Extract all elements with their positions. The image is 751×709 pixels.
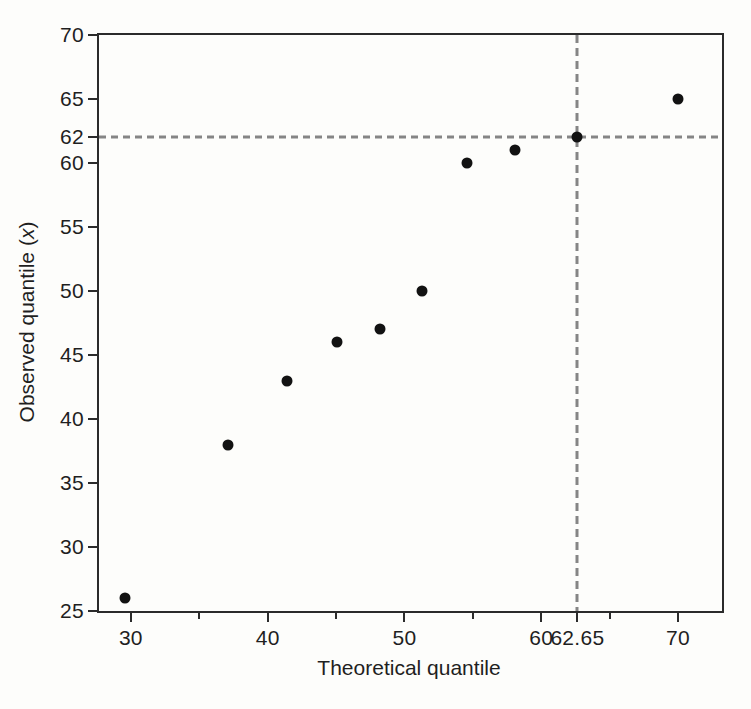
x-axis-tick xyxy=(677,613,679,622)
data-point xyxy=(281,375,292,386)
y-axis-tick xyxy=(88,290,97,292)
y-axis-tick-label: 30 xyxy=(60,535,84,559)
y-axis-tick-label: 25 xyxy=(60,599,84,623)
y-axis-tick-label: 60 xyxy=(60,151,84,175)
y-axis-tick xyxy=(88,418,97,420)
x-axis-tick xyxy=(267,613,269,622)
x-axis-tick xyxy=(576,613,578,622)
y-axis-tick xyxy=(88,98,97,100)
data-point xyxy=(417,286,428,297)
data-point xyxy=(332,337,343,348)
x-axis-tick-label: 70 xyxy=(666,626,690,650)
y-axis-tick xyxy=(88,136,97,138)
y-axis-tick-label: 62 xyxy=(60,125,84,149)
horizontal-reference-line xyxy=(99,136,722,139)
vertical-reference-line xyxy=(576,35,579,611)
data-point xyxy=(222,439,233,450)
x-axis-minor-tick xyxy=(472,613,474,619)
y-axis-tick-label: 70 xyxy=(60,23,84,47)
x-axis-tick xyxy=(403,613,405,622)
y-axis-tick xyxy=(88,226,97,228)
y-axis-tick xyxy=(88,354,97,356)
x-axis-minor-tick xyxy=(609,613,611,619)
x-axis-title: Theoretical quantile xyxy=(317,656,500,680)
y-axis-tick-label: 45 xyxy=(60,343,84,367)
y-axis-tick xyxy=(88,162,97,164)
x-axis-tick xyxy=(130,613,132,622)
x-axis-minor-tick xyxy=(198,613,200,619)
y-axis-tick-label: 50 xyxy=(60,279,84,303)
data-point xyxy=(672,94,683,105)
y-axis-tick xyxy=(88,34,97,36)
data-point xyxy=(510,145,521,156)
y-axis-tick xyxy=(88,482,97,484)
y-axis-title-variable: x xyxy=(15,229,38,240)
y-axis-title-text: Observed quantile ( xyxy=(15,239,38,422)
data-point xyxy=(374,324,385,335)
y-axis-tick-label: 35 xyxy=(60,471,84,495)
plot-area: 3040506062.65702530354045505560626570 xyxy=(97,33,724,613)
data-point xyxy=(462,158,473,169)
y-axis-tick xyxy=(88,610,97,612)
data-point xyxy=(572,132,583,143)
y-axis-tick-label: 55 xyxy=(60,215,84,239)
x-axis-tick-label: 30 xyxy=(119,626,143,650)
y-axis-title: Observed quantile (x) xyxy=(15,222,39,423)
x-axis-tick-label: 40 xyxy=(256,626,280,650)
x-axis-tick-label: 62.65 xyxy=(550,626,604,650)
x-axis-tick-label: 50 xyxy=(392,626,416,650)
data-point xyxy=(120,593,131,604)
y-axis-title-close-paren: ) xyxy=(15,222,38,229)
x-axis-tick xyxy=(540,613,542,622)
x-axis-minor-tick xyxy=(335,613,337,619)
y-axis-tick xyxy=(88,546,97,548)
qq-plot-figure: 3040506062.65702530354045505560626570 Ob… xyxy=(0,0,751,709)
y-axis-tick-label: 65 xyxy=(60,87,84,111)
y-axis-tick-label: 40 xyxy=(60,407,84,431)
